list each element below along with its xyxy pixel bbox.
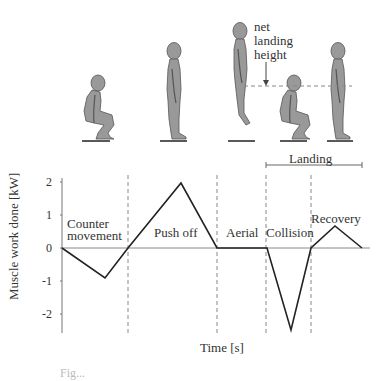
phase-recovery-label: Recovery	[311, 212, 361, 225]
work-curve	[62, 183, 362, 330]
figure-counter-movement	[84, 75, 114, 139]
annotation-landing: landing	[254, 34, 293, 47]
arrow-head-icon	[263, 80, 269, 86]
annotation-height: height	[254, 48, 287, 61]
figure-aerial	[233, 23, 250, 126]
landing-label: Landing	[289, 152, 332, 165]
phase-dividers	[128, 175, 311, 333]
human-figures	[84, 23, 350, 140]
ytick-2: 2	[32, 175, 52, 190]
figure-push-off	[167, 43, 186, 140]
figure-collision	[280, 75, 310, 139]
phase-aerial-label: Aerial	[226, 226, 258, 239]
ytick-neg2: -2	[32, 307, 52, 322]
ytick-neg1: -1	[32, 274, 52, 289]
figure-caption: Fig...	[60, 366, 85, 381]
ytick-1: 1	[32, 208, 52, 223]
y-axis-label: Muscle work done [kW]	[6, 173, 22, 300]
annotation-net: net	[254, 20, 270, 33]
ytick-0: 0	[32, 241, 52, 256]
phase-pushoff-label: Push off	[154, 226, 197, 239]
figure-recovery	[331, 43, 350, 140]
phase-counter-label-2: movement	[67, 229, 122, 242]
phase-collision-label: Collision	[266, 226, 314, 239]
x-axis-label: Time [s]	[200, 341, 244, 354]
